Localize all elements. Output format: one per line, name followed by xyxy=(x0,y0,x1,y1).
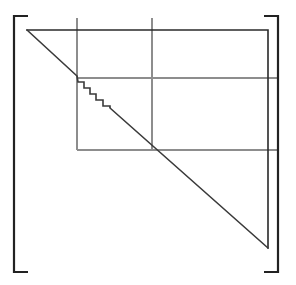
figure-container: Bracketed matrix diagram with anti-diago… xyxy=(0,0,296,285)
diagram-canvas xyxy=(0,0,296,285)
